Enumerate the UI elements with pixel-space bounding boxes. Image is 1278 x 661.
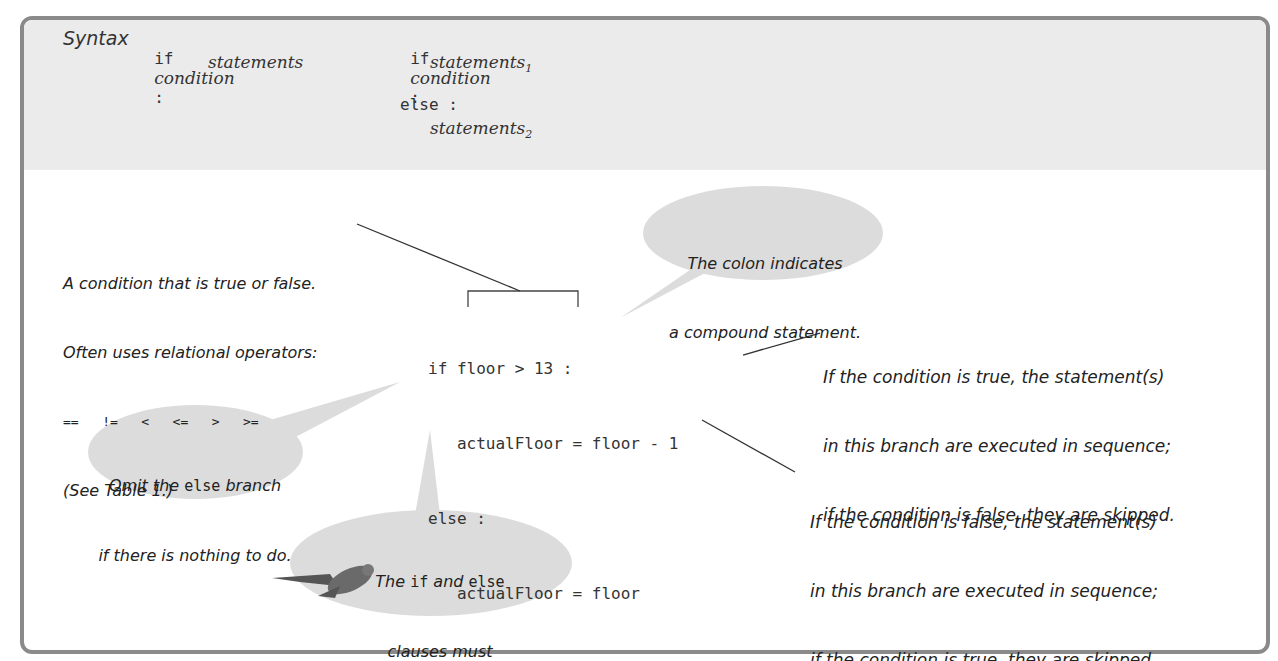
code-line-if: if floor > 13 : <box>428 356 678 381</box>
alignment-text: The if and else clauses must be aligned. <box>360 524 520 661</box>
condition-bracket <box>468 291 578 307</box>
false-branch-note: If the condition is false, the statement… <box>810 465 1158 661</box>
omit-else-text: Omit the else branch if there is nothing… <box>95 428 295 590</box>
false-branch-pointer-line <box>702 420 795 472</box>
condition-pointer-line <box>357 224 520 291</box>
code-line-true-stmt: actualFloor = floor - 1 <box>428 431 678 456</box>
